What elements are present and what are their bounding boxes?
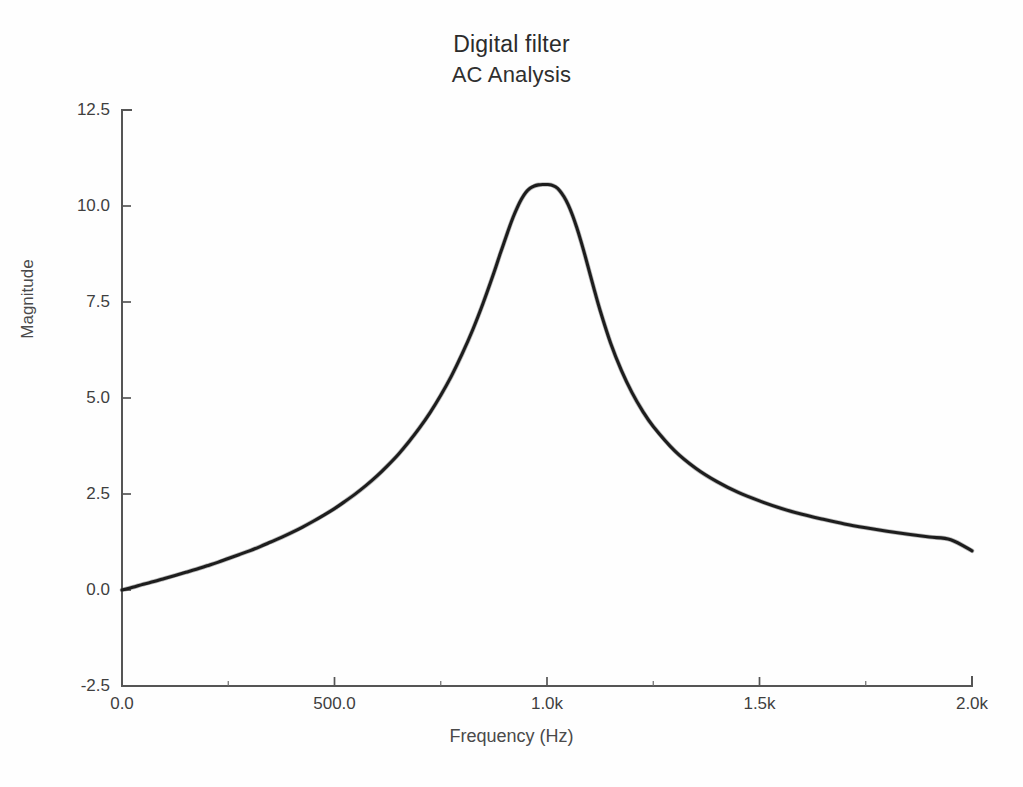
chart-figure: Digital filter AC Analysis Magnitude Fre…: [0, 0, 1023, 787]
data-curve-layer: [122, 184, 972, 590]
magnitude-curve: [122, 184, 972, 590]
magnitude-curve-halo: [122, 184, 972, 590]
plot-area: [0, 0, 1023, 787]
tick-mark-layer: [122, 110, 972, 686]
axis-spines: [122, 110, 972, 686]
